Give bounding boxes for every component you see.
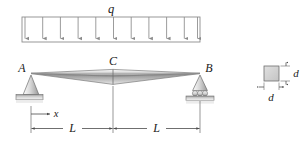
roller-support-b <box>186 75 214 104</box>
pin-triangle <box>23 75 39 95</box>
pin-ground-shadow <box>16 100 43 103</box>
pin-support-a <box>16 75 43 103</box>
cross-section-label-height-d: d <box>293 67 299 79</box>
roller-triangle <box>193 75 208 91</box>
beam-label-b: B <box>205 61 213 75</box>
beam-group: C A B <box>17 54 213 84</box>
roller-wheel <box>192 91 197 96</box>
beam-label-a: A <box>17 61 26 75</box>
x-axis-group: x <box>31 106 59 126</box>
dimension-label-right-L: L <box>152 121 160 135</box>
roller-wheels <box>192 91 207 96</box>
cross-section-label-width-d: d <box>268 91 274 103</box>
load-label-q: q <box>108 2 114 16</box>
distributed-load-group: q <box>22 2 200 42</box>
roller-wheel <box>202 91 207 96</box>
pin-ground-base <box>16 95 43 100</box>
cross-section-square <box>264 66 279 81</box>
load-box <box>22 17 200 42</box>
roller-ground-base <box>186 96 214 101</box>
x-axis-label: x <box>53 108 59 119</box>
dimension-label-left-L: L <box>68 121 76 135</box>
beam-label-c: C <box>109 54 118 68</box>
cross-section-group: d d <box>259 63 299 104</box>
beam-diagram-canvas: q C A B <box>0 0 308 145</box>
roller-wheel <box>197 91 202 96</box>
load-arrows <box>25 17 198 39</box>
beam-diagram-figure: q C A B <box>0 0 308 145</box>
